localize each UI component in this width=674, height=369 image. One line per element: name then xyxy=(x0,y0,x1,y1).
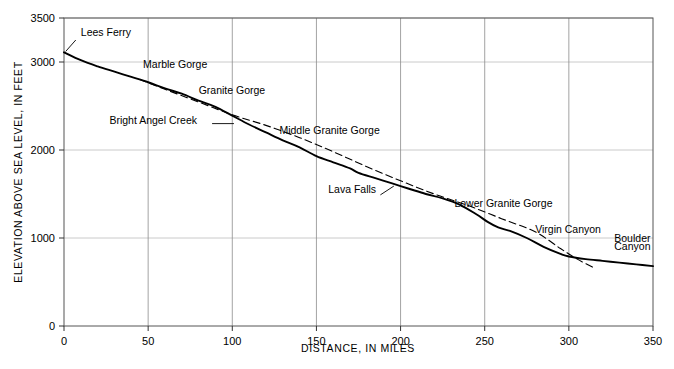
chart-canvas: Lees FerryMarble GorgeGranite GorgeBrigh… xyxy=(0,0,674,369)
y-tick-labels: 01000200030003500 xyxy=(31,12,55,332)
annotation-lower-granite-gorge: Lower Granite Gorge xyxy=(454,197,552,209)
x-axis-ticks xyxy=(64,326,653,331)
y-tick-label-3000: 3000 xyxy=(31,56,55,68)
annotation-granite-gorge: Granite Gorge xyxy=(199,84,266,96)
river-profile-chart: Lees FerryMarble GorgeGranite GorgeBrigh… xyxy=(0,0,674,369)
y-tick-label-3500: 3500 xyxy=(31,12,55,24)
annotation-bright-angel-creek: Bright Angel Creek xyxy=(109,114,197,126)
x-tick-label-250: 250 xyxy=(476,335,494,347)
annotation-middle-granite-gorge: Middle Granite Gorge xyxy=(279,124,380,136)
x-tick-label-100: 100 xyxy=(223,335,241,347)
y-tick-label-0: 0 xyxy=(49,320,55,332)
y-tick-label-1000: 1000 xyxy=(31,232,55,244)
annotation-boulder-canyon-line2: Canyon xyxy=(614,240,650,252)
y-tick-label-2000: 2000 xyxy=(31,144,55,156)
annotation-marble-gorge: Marble Gorge xyxy=(143,58,207,70)
x-tick-label-350: 350 xyxy=(644,335,662,347)
x-tick-label-300: 300 xyxy=(560,335,578,347)
x-tick-label-0: 0 xyxy=(61,335,67,347)
x-tick-label-50: 50 xyxy=(142,335,154,347)
annotation-virgin-canyon: Virgin Canyon xyxy=(535,223,601,235)
annotation-lees-ferry: Lees Ferry xyxy=(81,26,132,38)
annotation-lava-falls: Lava Falls xyxy=(328,183,376,195)
y-axis-ticks xyxy=(59,18,64,326)
y-axis-title: ELEVATION ABOVE SEA LEVEL, IN FEET xyxy=(12,61,24,282)
x-axis-title: DISTANCE, IN MILES xyxy=(301,342,415,354)
